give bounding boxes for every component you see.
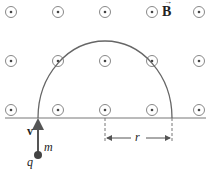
field-symbols xyxy=(6,7,205,116)
field-dot-icon xyxy=(198,11,201,14)
radius-label: r xyxy=(135,131,140,143)
field-dot-icon xyxy=(104,109,107,112)
charge-label: q xyxy=(27,156,33,168)
particle xyxy=(34,151,42,159)
field-dot-icon xyxy=(104,60,107,63)
field-dot-icon xyxy=(57,109,60,112)
magnetic-field-diagram xyxy=(0,0,211,173)
field-dot-icon xyxy=(10,60,13,63)
field-dot-icon xyxy=(104,11,107,14)
trajectory-arc xyxy=(38,41,172,118)
field-dot-icon xyxy=(198,60,201,63)
field-dot-icon xyxy=(57,11,60,14)
field-dot-icon xyxy=(151,109,154,112)
field-label: B xyxy=(162,5,171,19)
field-dot-icon xyxy=(151,11,154,14)
field-dot-icon xyxy=(10,11,13,14)
field-dot-icon xyxy=(10,109,13,112)
mass-label: m xyxy=(44,141,53,153)
field-vector-arrow: → xyxy=(164,0,172,6)
velocity-label: v xyxy=(27,125,33,137)
field-dot-icon xyxy=(198,109,201,112)
